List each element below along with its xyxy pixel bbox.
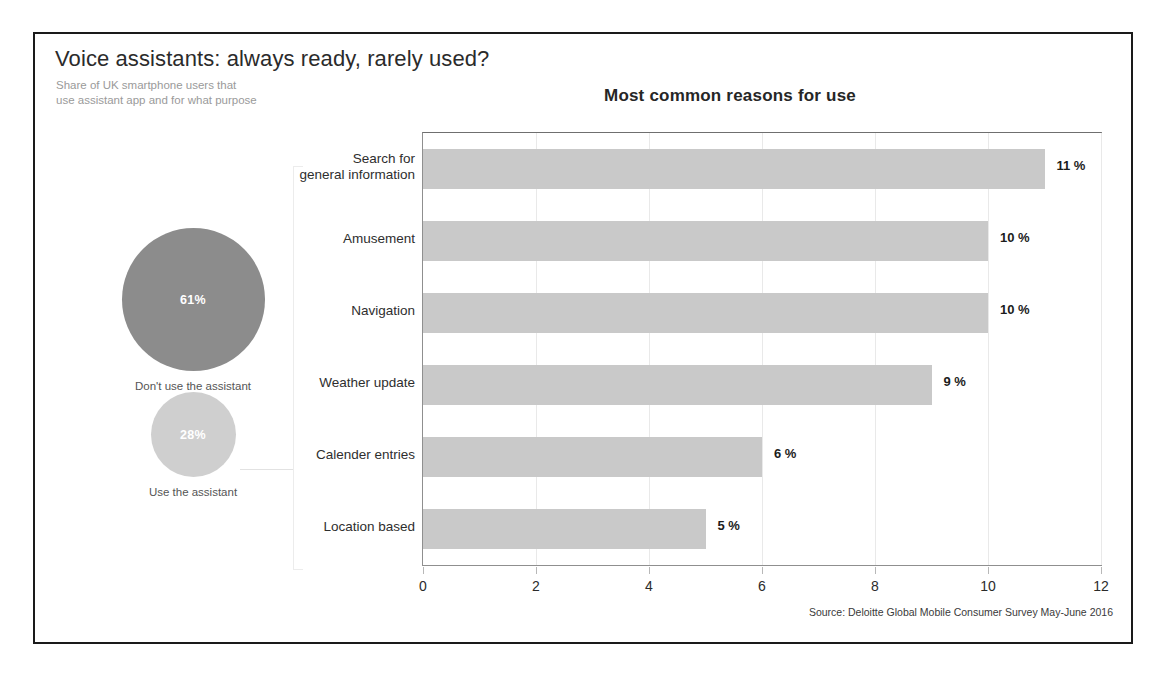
- bar[interactable]: [423, 437, 762, 477]
- x-axis-tick-label: 6: [747, 578, 777, 594]
- source-note: Source: Deloitte Global Mobile Consumer …: [809, 606, 1113, 618]
- circle-shape-dont-use: 61%: [122, 228, 265, 371]
- connector-cap-bottom: [293, 569, 303, 570]
- x-axis-tick-mark: [875, 567, 876, 574]
- bar-row: 6 %: [423, 421, 1101, 493]
- x-axis-tick-mark: [536, 567, 537, 574]
- x-axis-tick-mark: [988, 567, 989, 574]
- bar-value-label: 11 %: [1057, 158, 1086, 173]
- bar-value-label: 10 %: [1000, 230, 1030, 245]
- infographic-frame: Voice assistants: always ready, rarely u…: [33, 32, 1133, 644]
- x-axis-tick-label: 10: [973, 578, 1003, 594]
- bar-row: 10 %: [423, 277, 1101, 349]
- bar[interactable]: [423, 149, 1045, 189]
- x-axis-tick-label: 4: [634, 578, 664, 594]
- x-axis-tick-mark: [423, 567, 424, 574]
- circle-shape-use: 28%: [151, 392, 236, 477]
- x-axis-tick-mark: [762, 567, 763, 574]
- circle-caption-use: Use the assistant: [98, 486, 288, 498]
- circle-value-use: 28%: [151, 428, 236, 442]
- category-label: Navigation: [297, 303, 415, 319]
- page-subtitle: Share of UK smartphone users that use as…: [56, 78, 257, 108]
- gridline: [1101, 133, 1102, 565]
- bar-row: 9 %: [423, 349, 1101, 421]
- bar-chart-plot-area: 11 %10 %10 %9 %6 %5 %: [422, 132, 1102, 566]
- circle-caption-dont-use: Don't use the assistant: [83, 380, 303, 392]
- bar-row: 10 %: [423, 205, 1101, 277]
- bar[interactable]: [423, 221, 988, 261]
- bar-row: 5 %: [423, 493, 1101, 565]
- category-label: Calender entries: [297, 447, 415, 463]
- x-axis-tick-mark: [649, 567, 650, 574]
- bar-value-label: 6 %: [774, 446, 796, 461]
- stat-circle-use: 28% Use the assistant: [98, 392, 288, 498]
- x-axis-tick-label: 0: [408, 578, 438, 594]
- page-title: Voice assistants: always ready, rarely u…: [55, 46, 489, 72]
- x-axis-tick-mark: [1101, 567, 1102, 574]
- bar-row: 11 %: [423, 133, 1101, 205]
- x-axis-tick-label: 12: [1086, 578, 1116, 594]
- bar[interactable]: [423, 365, 932, 405]
- chart-title: Most common reasons for use: [520, 86, 940, 106]
- x-axis-tick-label: 8: [860, 578, 890, 594]
- category-label: Amusement: [297, 231, 415, 247]
- x-axis-tick-label: 2: [521, 578, 551, 594]
- bar-value-label: 10 %: [1000, 302, 1030, 317]
- bar[interactable]: [423, 509, 706, 549]
- category-label: Location based: [297, 519, 415, 535]
- circle-value-dont-use: 61%: [122, 293, 265, 307]
- bar-value-label: 9 %: [944, 374, 966, 389]
- category-label: Weather update: [297, 375, 415, 391]
- bar[interactable]: [423, 293, 988, 333]
- bar-value-label: 5 %: [718, 518, 740, 533]
- category-label: Search for general information: [297, 151, 415, 183]
- stat-circle-dont-use: 61% Don't use the assistant: [83, 228, 303, 392]
